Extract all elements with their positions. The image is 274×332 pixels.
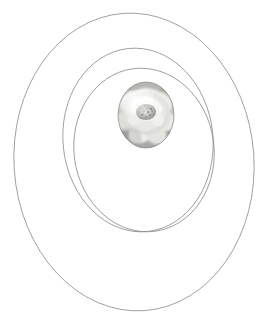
flower-photo xyxy=(109,77,181,155)
ring-group xyxy=(4,5,264,319)
photo-highlight xyxy=(122,90,158,118)
photo-shadow xyxy=(114,128,142,148)
illustration-canvas: Three concentric thin-line ellipse outli… xyxy=(0,0,274,332)
figure-svg xyxy=(0,0,274,332)
outer-ellipse xyxy=(4,5,264,319)
